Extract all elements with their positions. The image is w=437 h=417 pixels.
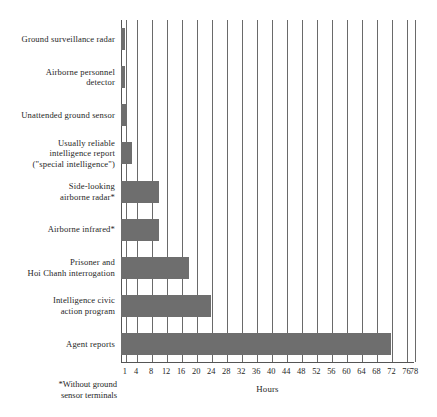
category-label: Side-lookingairborne radar*	[0, 181, 115, 202]
bar	[121, 295, 211, 317]
category-label: Airborne personneldetector	[0, 67, 115, 88]
category-label-line: Unattended ground sensor	[21, 110, 115, 120]
category-label-line: ("special intelligence")	[33, 159, 115, 169]
category-label: Intelligence civicaction program	[0, 295, 115, 316]
x-tick-label: 60	[342, 366, 350, 377]
bar	[121, 66, 125, 88]
footnote-line-1: *Without ground	[58, 379, 117, 389]
x-tick-label: 72	[387, 366, 395, 377]
bar	[121, 219, 159, 241]
x-tick-label: 52	[312, 366, 320, 377]
bar	[121, 104, 127, 126]
category-label-line: Hoi Chanh interrogation	[28, 268, 115, 278]
chart-footnote: *Without ground sensor terminals	[0, 379, 117, 400]
x-tick-label: 4	[134, 366, 138, 377]
bar	[121, 142, 132, 164]
x-tick-label: 24	[207, 366, 215, 377]
category-label-line: Airborne infrared*	[48, 224, 115, 234]
category-label: Unattended ground sensor	[0, 110, 115, 120]
x-axis-title: Hours	[121, 384, 414, 394]
x-tick-label: 48	[297, 366, 305, 377]
gridline	[415, 20, 416, 362]
bars-layer	[121, 20, 414, 363]
category-label: Usually reliableintelligence report("spe…	[0, 138, 115, 169]
bar	[121, 257, 189, 279]
x-tick-label: 40	[267, 366, 275, 377]
x-tick-label: 28	[222, 366, 230, 377]
category-label: Prisoner andHoi Chanh interrogation	[0, 257, 115, 278]
category-label-line: Agent reports	[66, 339, 115, 349]
bar	[121, 181, 159, 203]
category-label-line: Prisoner and	[70, 257, 115, 267]
x-tick-label: 12	[162, 366, 170, 377]
category-label: Airborne infrared*	[0, 224, 115, 234]
category-axis-labels: Ground surveillance radarAirborne person…	[0, 20, 115, 363]
horizontal-bar-chart: Ground surveillance radarAirborne person…	[0, 0, 437, 417]
bar	[121, 28, 125, 50]
bar	[121, 333, 391, 355]
category-label-line: Airborne personnel	[46, 67, 115, 77]
x-tick-label: 16	[177, 366, 185, 377]
category-label-line: Side-looking	[69, 181, 115, 191]
x-tick-label: 32	[237, 366, 245, 377]
category-label-line: airborne radar*	[60, 192, 115, 202]
category-label-line: detector	[86, 77, 115, 87]
x-tick-label: 20	[192, 366, 200, 377]
x-tick-label: 1	[123, 366, 127, 377]
x-tick-label: 36	[252, 366, 260, 377]
x-tick-label: 56	[327, 366, 335, 377]
x-tick-label: 64	[357, 366, 365, 377]
x-tick-label: 68	[372, 366, 380, 377]
x-tick-label: 44	[282, 366, 290, 377]
category-label-line: action program	[61, 306, 115, 316]
category-label: Ground surveillance radar	[0, 34, 115, 44]
category-label-line: intelligence report	[49, 148, 115, 158]
category-label-line: Usually reliable	[58, 138, 115, 148]
footnote-line-2: sensor terminals	[61, 390, 117, 400]
category-label-line: Ground surveillance radar	[22, 34, 115, 44]
category-label: Agent reports	[0, 339, 115, 349]
x-tick-label: 8	[149, 366, 153, 377]
x-tick-label: 78	[410, 366, 418, 377]
x-axis-tick-labels: 148121620242832364044485256606468727678	[0, 366, 437, 380]
category-label-line: Intelligence civic	[53, 295, 115, 305]
